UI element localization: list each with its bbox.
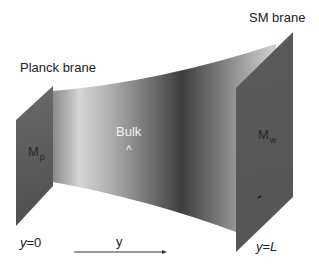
weak-mass-label: Mw [258, 128, 276, 141]
bulk-marker-icon: ^ [126, 144, 132, 156]
planck-brane-label: Planck brane [20, 61, 96, 74]
warped-extra-dimension-diagram: Planck brane SM brane Bulk ^ Mp Mw y=0 y… [0, 0, 319, 269]
weak-mass-symbol: M [258, 127, 269, 142]
y-axis-arrow-icon [74, 250, 167, 254]
weak-mass-subscript: w [270, 135, 277, 145]
planck-mass-symbol: M [28, 144, 39, 159]
equals-sign: = [263, 239, 271, 254]
bulk-label: Bulk [116, 125, 141, 138]
position-value: L [270, 239, 277, 254]
sm-brane-label: SM brane [249, 11, 305, 24]
sm-brane-position: y=L [256, 240, 277, 253]
position-value: 0 [34, 235, 41, 250]
axis-label: y [116, 235, 123, 248]
planck-mass-label: Mp [28, 145, 45, 158]
planck-mass-subscript: p [40, 152, 45, 162]
equals-sign: = [27, 235, 35, 250]
planck-brane-position: y=0 [20, 236, 41, 249]
